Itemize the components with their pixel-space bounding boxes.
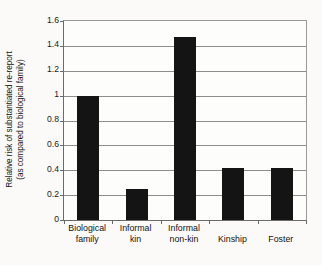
x-axis-label-line: Foster bbox=[257, 234, 305, 245]
x-axis-category-label: Informalkin bbox=[111, 223, 159, 245]
y-axis-tick-label: 0.6 bbox=[33, 140, 59, 149]
y-axis-title-line-2: (as compared to biological family) bbox=[15, 17, 26, 223]
bar bbox=[174, 37, 196, 220]
x-axis-label-line: kin bbox=[111, 234, 159, 245]
x-axis-category-label: Foster bbox=[257, 234, 305, 245]
x-axis-label-line: non-kin bbox=[160, 234, 208, 245]
y-axis-tick-label: 1.4 bbox=[33, 40, 59, 49]
x-axis-label-line: Kinship bbox=[208, 234, 256, 245]
y-axis-tick-label: 0 bbox=[33, 215, 59, 224]
x-axis-label-line: family bbox=[63, 234, 111, 245]
y-axis-title-line-1: Relative risk of substantiated re-report bbox=[5, 51, 14, 187]
y-axis-tick-label: 0.4 bbox=[33, 165, 59, 174]
y-axis-tick-mark bbox=[60, 96, 64, 97]
y-axis-tick-mark bbox=[60, 145, 64, 146]
y-axis-tick-mark bbox=[60, 21, 64, 22]
y-axis-tick-label: 0.8 bbox=[33, 115, 59, 124]
y-axis-tick-label: 1 bbox=[33, 90, 59, 99]
y-axis-tick-label: 1.6 bbox=[33, 16, 59, 25]
bar bbox=[77, 96, 99, 220]
x-axis-category-label: Informalnon-kin bbox=[160, 223, 208, 245]
bar bbox=[126, 189, 148, 220]
y-axis-tick-mark bbox=[60, 170, 64, 171]
y-axis-tick-label: 0.2 bbox=[33, 190, 59, 199]
y-axis-tick-mark bbox=[60, 121, 64, 122]
x-axis-label-line: Informal bbox=[160, 223, 208, 234]
bar bbox=[271, 168, 293, 220]
y-axis-tick-mark bbox=[60, 46, 64, 47]
bar-chart-figure: Relative risk of substantiated re-report… bbox=[0, 0, 322, 265]
y-axis-tick-labels: 00.20.40.60.811.21.41.6 bbox=[33, 0, 59, 265]
x-axis-category-labels: BiologicalfamilyInformalkinInformalnon-k… bbox=[63, 223, 305, 263]
x-axis-label-line: Biological bbox=[63, 223, 111, 234]
y-axis-tick-mark bbox=[60, 195, 64, 196]
x-axis-tick-mark bbox=[306, 220, 307, 224]
bar bbox=[222, 168, 244, 220]
x-axis-category-label: Kinship bbox=[208, 234, 256, 245]
y-axis-tick-mark bbox=[60, 71, 64, 72]
y-axis-tick-label: 1.2 bbox=[33, 65, 59, 74]
y-axis-title: Relative risk of substantiated re-report… bbox=[5, 17, 26, 223]
y-axis-title-container: Relative risk of substantiated re-report… bbox=[0, 14, 30, 220]
x-axis-label-line: Informal bbox=[111, 223, 159, 234]
x-axis-category-label: Biologicalfamily bbox=[63, 223, 111, 245]
plot-area bbox=[63, 20, 307, 221]
